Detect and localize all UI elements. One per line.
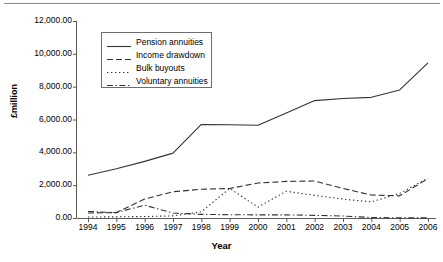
x-tick-label: 1995 <box>101 222 131 232</box>
x-tick-label: 1999 <box>215 222 245 232</box>
series-line-bulk-buyouts <box>88 178 428 217</box>
chart-figure: £million 0.002,000.004,000.006,000.008,0… <box>0 0 443 262</box>
x-tick-label: 2002 <box>300 222 330 232</box>
legend-item[interactable]: Pension annuities <box>106 36 207 48</box>
legend-label: Income drawdown <box>136 50 205 60</box>
legend-label: Pension annuities <box>136 37 203 47</box>
x-tick-label: 2005 <box>385 222 415 232</box>
x-tick-label: 2003 <box>328 222 358 232</box>
series-line-income-drawdown <box>88 179 428 213</box>
x-axis-title: Year <box>0 240 443 251</box>
legend-item[interactable]: Income drawdown <box>106 49 207 61</box>
legend-item[interactable]: Voluntary annuities <box>106 75 207 87</box>
x-tick-label: 1998 <box>186 222 216 232</box>
legend: Pension annuitiesIncome drawdownBulk buy… <box>101 32 212 88</box>
legend-line-swatch <box>106 76 132 86</box>
legend-label: Voluntary annuities <box>136 76 208 86</box>
x-tick-label: 1996 <box>130 222 160 232</box>
x-tick-label: 1997 <box>158 222 188 232</box>
legend-label: Bulk buyouts <box>136 63 185 73</box>
x-tick-label: 2006 <box>413 222 443 232</box>
x-tick-label: 2004 <box>356 222 386 232</box>
x-tick-label: 1994 <box>73 222 103 232</box>
x-tick-label: 2000 <box>243 222 273 232</box>
legend-line-swatch <box>106 63 132 73</box>
x-tick-label: 2001 <box>271 222 301 232</box>
legend-item[interactable]: Bulk buyouts <box>106 62 207 74</box>
y-axis-ticks <box>73 22 77 219</box>
legend-line-swatch <box>106 50 132 60</box>
legend-line-swatch <box>106 37 132 47</box>
